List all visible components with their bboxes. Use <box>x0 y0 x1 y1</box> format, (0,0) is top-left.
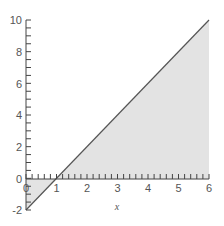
x-tick-label: 0 <box>23 182 29 194</box>
y-tick-label: 6 <box>16 78 22 90</box>
y-tick-label: 4 <box>16 109 22 121</box>
x-tick-label: 6 <box>206 182 212 194</box>
chart: -2 0 2 4 6 8 10 0 1 2 3 4 5 6 x <box>0 0 224 226</box>
x-tick-label: 2 <box>84 182 90 194</box>
x-axis-label: x <box>114 201 120 212</box>
y-tick-label: 0 <box>16 173 22 185</box>
y-tick-label: 2 <box>16 141 22 153</box>
x-tick-label: 1 <box>53 182 59 194</box>
x-tick-label: 4 <box>145 182 151 194</box>
y-tick-label: 8 <box>16 46 22 58</box>
y-tick-label: 10 <box>10 14 22 26</box>
x-tick-label: 3 <box>114 182 120 194</box>
y-tick-label: -2 <box>12 204 22 216</box>
x-tick-label: 5 <box>175 182 181 194</box>
